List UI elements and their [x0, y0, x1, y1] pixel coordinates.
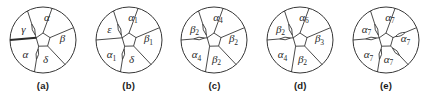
spoke-upper-left-tail — [371, 11, 375, 24]
spoke-upper-left-lens — [203, 24, 207, 35]
figure-panel-c: α4β2β2α4β2(c) — [172, 0, 258, 98]
panel-caption: (e) — [380, 81, 392, 91]
central-pentagon — [36, 33, 50, 46]
region-label-subscript: 1 — [134, 16, 138, 25]
spoke-lower-left — [292, 46, 296, 72]
region-label-subscript: 2 — [235, 38, 239, 47]
spoke-upper-left-tail — [113, 11, 117, 24]
pentagon-disk-diagram: α4β2β2α4β2 — [176, 3, 252, 79]
spoke-lower-left — [120, 46, 124, 72]
region-label-right: β — [59, 32, 66, 44]
region-label-right: β2 — [228, 32, 238, 47]
region-label-lower-left: α4 — [278, 48, 288, 63]
figure-panel-a: αβδαγ(a) — [0, 0, 86, 98]
spoke-lower-left — [206, 46, 210, 72]
panel-caption: (a) — [37, 81, 49, 91]
region-label-upper-left: β2 — [189, 23, 199, 38]
figure-row: αβδαγ(a)α1β1δα1ε(b)α4β2β2α4β2(c)α6β3β2α4… — [0, 0, 429, 98]
region-label-subscript: 7 — [370, 54, 374, 63]
panel-caption: (d) — [294, 81, 307, 91]
diagram-canvas: α6β3β2α4β2 — [262, 3, 338, 79]
spoke-lower-left-line — [206, 46, 210, 72]
spoke-left-tail — [181, 39, 194, 40]
region-label-subscript: 2 — [196, 28, 200, 37]
region-label-upper-left: α7 — [362, 23, 372, 38]
spoke-upper-left — [199, 11, 208, 38]
spoke-upper-left — [285, 11, 294, 38]
spoke-left — [267, 37, 293, 40]
region-label-bottom: δ — [129, 53, 135, 65]
spoke-upper-left — [113, 11, 122, 38]
spoke-left-tail — [267, 39, 280, 40]
spoke-lower-right — [219, 46, 236, 65]
spoke-left-lens — [194, 37, 205, 40]
spoke-left — [10, 38, 36, 40]
pentagon-disk-diagram: α7α7α7α7α7 — [348, 3, 424, 79]
region-label-subscript: 1 — [149, 38, 153, 47]
pentagon-disk-diagram: α6β3β2α4β2 — [262, 3, 338, 79]
diagram-canvas: α1β1δα1ε — [91, 3, 167, 79]
diagram-canvas: α4β2β2α4β2 — [176, 3, 252, 79]
region-label-subscript: 4 — [220, 16, 224, 25]
region-label-lower-left: α1 — [106, 48, 116, 63]
spoke-lower-left-line — [292, 46, 296, 72]
region-label-subscript: 2 — [282, 28, 286, 37]
spoke-upper-left-tail — [285, 11, 289, 24]
figure-panel-e: α7α7α7α7α7(e) — [343, 0, 429, 98]
spoke-left-tail — [353, 39, 366, 40]
region-label-subscript: 7 — [390, 58, 394, 67]
region-label-bottom: β2 — [211, 53, 221, 68]
spoke-lower-left-tail — [120, 60, 122, 72]
spoke-upper-left — [27, 11, 36, 38]
spoke-lower-right — [133, 46, 150, 65]
region-label-bottom: β2 — [297, 53, 307, 68]
spoke-left — [96, 38, 122, 40]
spoke-lower-left-lens — [379, 49, 382, 60]
spoke-lower-right — [305, 46, 322, 65]
spoke-lower-right-lens — [392, 48, 399, 56]
region-label-right: β1 — [143, 32, 153, 47]
figure-panel-d: α6β3β2α4β2(d) — [257, 0, 343, 98]
spoke-upper-left-lens — [31, 24, 35, 35]
region-label-subscript: 7 — [368, 28, 372, 37]
spoke-lower-left — [378, 46, 382, 72]
region-label-upper-left: γ — [21, 23, 26, 35]
region-label-subscript: 6 — [305, 16, 309, 25]
region-label-subscript: 2 — [218, 58, 222, 67]
region-label-right: α7 — [401, 32, 411, 47]
spoke-left-line — [10, 38, 36, 40]
spoke-upper-left-tail — [199, 11, 203, 24]
pentagon-disk-diagram: α1β1δα1ε — [91, 3, 167, 79]
spoke-lower-right-line — [133, 46, 150, 65]
panel-caption: (b) — [122, 81, 135, 91]
central-pentagon — [293, 33, 307, 46]
spoke-upper-left — [371, 11, 380, 38]
region-label-upper-left: ε — [107, 23, 112, 35]
spoke-upper-right-tail — [405, 28, 416, 33]
region-label-subscript: 2 — [304, 58, 308, 67]
region-label-bottom: α7 — [384, 53, 394, 68]
spoke-left-lens — [280, 37, 291, 40]
pentagon-disk-diagram: αβδαγ — [5, 3, 81, 79]
diagram-canvas: αβδαγ — [5, 3, 81, 79]
region-label-subscript: 7 — [407, 38, 411, 47]
spoke-lower-left-tail — [34, 60, 36, 72]
spoke-lower-left-lens — [122, 49, 125, 60]
region-label-lower-left: α — [23, 48, 29, 60]
region-label-bottom: δ — [43, 53, 49, 65]
spoke-lower-right-line — [305, 46, 322, 65]
spoke-lower-right-line — [47, 46, 64, 65]
region-label-top: α — [44, 11, 50, 23]
spoke-left-line — [96, 38, 122, 40]
spoke-upper-left-lens — [117, 24, 121, 35]
central-pentagon — [208, 33, 222, 46]
spoke-lower-right — [47, 46, 64, 65]
spoke-lower-right-line — [219, 46, 236, 65]
spoke-lower-left — [34, 46, 38, 72]
region-label-lower-left: α7 — [364, 48, 374, 63]
spoke-left — [353, 37, 379, 40]
spoke-upper-left-lens — [289, 24, 293, 35]
region-label-lower-left: α4 — [192, 48, 202, 63]
region-label-upper-left: β2 — [275, 23, 285, 38]
figure-panel-b: α1β1δα1ε(b) — [86, 0, 172, 98]
